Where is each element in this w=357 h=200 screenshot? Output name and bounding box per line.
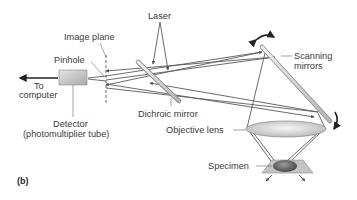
label-dichroic-mirror: Dichroic mirror xyxy=(138,109,198,119)
stage-arrow-right xyxy=(299,175,305,181)
label-computer: computer xyxy=(19,90,57,100)
label-image-plane: Image plane xyxy=(64,32,115,42)
label-pinhole: Pinhole xyxy=(54,55,85,65)
label-laser: Laser xyxy=(148,11,171,21)
light-beams xyxy=(88,22,325,161)
panel-label: (b) xyxy=(17,176,29,186)
specimen xyxy=(273,160,297,172)
label-detector: Detector xyxy=(53,119,88,129)
label-mirrors: mirrors xyxy=(294,61,323,71)
label-scanning: Scanning xyxy=(294,51,332,61)
stage-arrow-left xyxy=(266,175,272,181)
image-plane-leader xyxy=(100,43,106,57)
label-specimen: Specimen xyxy=(208,161,249,171)
objective-lens xyxy=(246,121,326,137)
label-objective-lens: Objective lens xyxy=(166,125,224,135)
pinhole-leader xyxy=(91,62,104,76)
detector-box xyxy=(59,70,87,85)
confocal-microscope-diagram: Laser Image plane Pinhole To computer De… xyxy=(0,0,357,200)
rotation-arrow-bottom xyxy=(334,112,337,129)
label-detector-sub: (photomultiplier tube) xyxy=(23,129,109,139)
rotation-arrow-top xyxy=(256,35,274,40)
